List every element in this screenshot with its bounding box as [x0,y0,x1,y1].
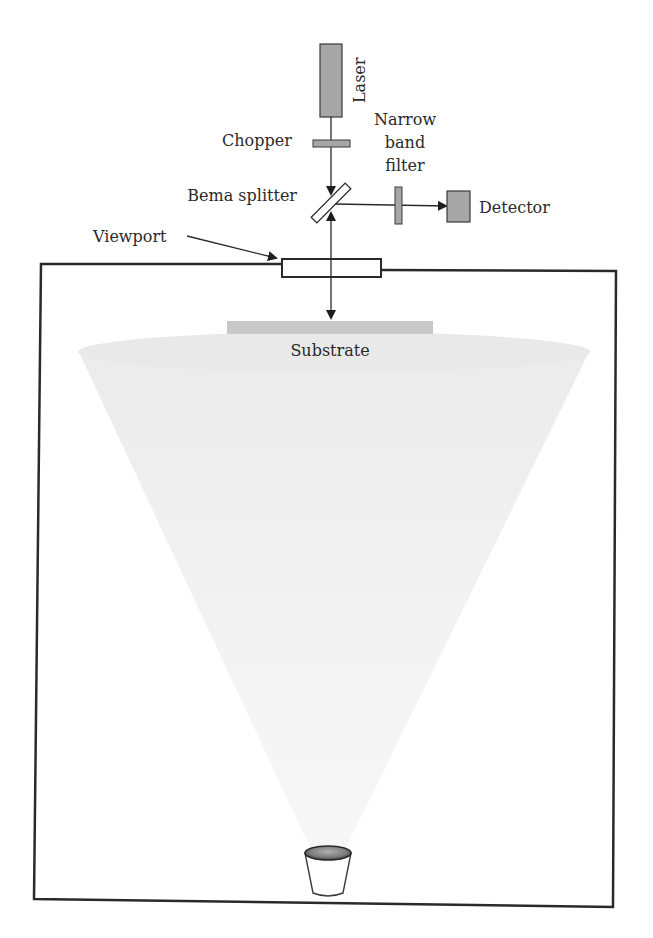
crucible [305,846,351,896]
substrate-label: Substrate [290,341,369,360]
narrow-band-filter [395,187,402,224]
viewport-pointer-arrow [187,236,276,258]
deposition-monitoring-diagram: Substrate Laser Chopper Narrow band filt… [0,0,653,938]
substrate [227,321,433,334]
chopper-label: Chopper [222,131,292,150]
beam-to-detector [335,204,446,206]
vapor-plume [78,332,590,852]
beam-splitter-label: Bema splitter [187,186,297,205]
svg-text:band: band [385,133,425,152]
laser [320,44,342,117]
viewport-label: Viewport [92,227,167,246]
detector-label: Detector [479,198,550,217]
svg-text:Narrow: Narrow [374,110,436,129]
svg-text:filter: filter [385,156,425,175]
laser-label: Laser [350,57,369,103]
chopper [313,140,350,147]
narrow-band-filter-label: Narrow band filter [374,110,436,175]
detector [447,191,470,222]
